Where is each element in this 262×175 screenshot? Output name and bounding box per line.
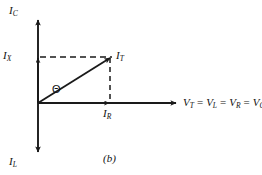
phasor-diagram-figure: IC IX IL IT IR Θ VT=VL=VR=VC (b)	[0, 0, 262, 175]
vector-label-ir-subscript: R	[107, 112, 112, 121]
phase-angle-label: Θ	[52, 83, 61, 95]
voltage-term-vc-symbol: V	[253, 96, 260, 108]
equals-operator-2: =	[217, 96, 229, 108]
equals-operator-3: =	[241, 96, 253, 108]
voltage-term-vt-subscript: T	[190, 101, 194, 110]
voltage-term-vc-subscript: C	[260, 101, 262, 110]
axis-label-il: IL	[9, 156, 17, 167]
vector-label-ir: IR	[103, 108, 111, 119]
vector-label-it: IT	[116, 50, 124, 61]
phasor-diagram-canvas	[0, 0, 262, 175]
voltage-term-vr-symbol: V	[229, 96, 236, 108]
vector-total-current	[38, 58, 110, 103]
voltage-term-vl-subscript: L	[213, 101, 217, 110]
figure-caption: (b)	[103, 152, 116, 164]
axis-label-il-subscript: L	[13, 160, 17, 169]
axis-label-ic-subscript: C	[13, 9, 18, 18]
voltage-term-vt-symbol: V	[183, 96, 190, 108]
voltage-equality-expression: VT=VL=VR=VC	[183, 97, 262, 108]
vector-label-ix-subscript: X	[7, 54, 12, 63]
vector-label-ix: IX	[3, 50, 11, 61]
axis-label-ic: IC	[9, 5, 18, 16]
voltage-term-vl-symbol: V	[206, 96, 213, 108]
voltage-term-vr-subscript: R	[236, 101, 241, 110]
equals-operator-1: =	[194, 96, 206, 108]
vector-label-it-subscript: T	[120, 54, 124, 63]
